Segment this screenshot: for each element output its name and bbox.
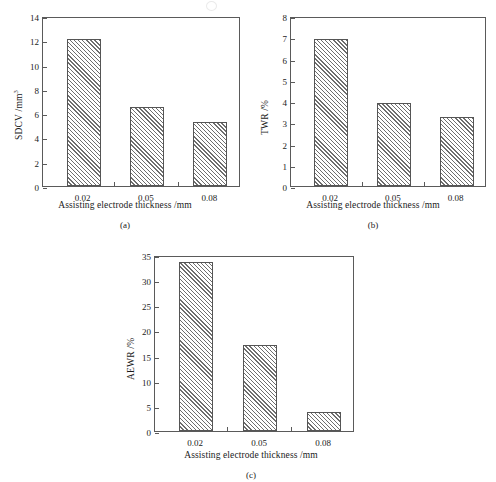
y-tick-mark bbox=[291, 18, 295, 19]
x-tick-mark bbox=[178, 182, 179, 186]
y-tick-mark bbox=[43, 42, 47, 43]
chart-panel-c: 05101520253035 AEWR /% Assisting electro… bbox=[120, 240, 382, 482]
y-tick-label: 20 bbox=[125, 328, 151, 337]
y-tick-mark bbox=[291, 167, 295, 168]
y-tick-label: 30 bbox=[125, 278, 151, 287]
y-tick-label: 2 bbox=[13, 159, 39, 168]
y-tick-mark bbox=[155, 307, 159, 308]
bar-0.08 bbox=[193, 122, 227, 186]
y-tick-mark bbox=[155, 358, 159, 359]
x-tick-label-0.08: 0.08 bbox=[186, 193, 232, 203]
x-tick-label-0.02: 0.02 bbox=[172, 438, 218, 448]
x-tick-label-0.05: 0.05 bbox=[123, 193, 169, 203]
y-tick-mark bbox=[43, 115, 47, 116]
chart-panel-b: 012345678 TWR /% Assisting electrode thi… bbox=[250, 0, 496, 232]
y-tick-mark bbox=[291, 61, 295, 62]
y-tick-label: 0 bbox=[13, 184, 39, 193]
bar-0.02 bbox=[179, 262, 213, 431]
y-tick-mark bbox=[155, 433, 159, 434]
bar-0.05 bbox=[130, 107, 164, 186]
panel-caption-a: (a) bbox=[0, 220, 250, 230]
y-tick-mark bbox=[155, 282, 159, 283]
y-tick-mark bbox=[291, 146, 295, 147]
x-tick-mark bbox=[424, 182, 425, 186]
x-tick-label-0.02: 0.02 bbox=[60, 193, 106, 203]
x-tick-mark bbox=[114, 182, 115, 186]
y-axis-label-a: SDCV /mm3 bbox=[12, 90, 24, 140]
y-tick-label: 14 bbox=[13, 14, 39, 23]
y-axis-label-b: TWR /% bbox=[260, 100, 270, 135]
y-tick-mark bbox=[291, 82, 295, 83]
y-tick-label: 5 bbox=[125, 403, 151, 412]
y-axis-label-superscript: 3 bbox=[12, 90, 19, 93]
x-tick-label-0.08: 0.08 bbox=[433, 193, 479, 203]
y-tick-mark bbox=[43, 188, 47, 189]
bar-0.08 bbox=[307, 412, 341, 431]
y-tick-label: 35 bbox=[125, 253, 151, 262]
y-tick-mark bbox=[43, 91, 47, 92]
y-tick-label: 8 bbox=[261, 14, 287, 23]
panel-caption-c: (c) bbox=[120, 470, 382, 480]
y-tick-label: 5 bbox=[261, 77, 287, 86]
y-axis-label-c: AEWR /% bbox=[126, 338, 136, 380]
bar-0.02 bbox=[67, 39, 101, 186]
figure-three-bar-charts: 02468101214 SDCV /mm3 Assisting electrod… bbox=[0, 0, 496, 482]
y-tick-label: 6 bbox=[261, 56, 287, 65]
y-tick-mark bbox=[43, 164, 47, 165]
y-tick-label: 1 bbox=[261, 162, 287, 171]
y-tick-mark bbox=[155, 332, 159, 333]
x-tick-mark bbox=[227, 427, 228, 431]
y-tick-label: 0 bbox=[125, 429, 151, 438]
bar-0.08 bbox=[440, 117, 474, 186]
bar-0.05 bbox=[377, 103, 411, 186]
y-tick-mark bbox=[291, 124, 295, 125]
x-tick-label-0.05: 0.05 bbox=[370, 193, 416, 203]
plot-area-b: 012345678 bbox=[290, 17, 486, 187]
x-tick-label-0.05: 0.05 bbox=[236, 438, 282, 448]
y-tick-mark bbox=[155, 257, 159, 258]
x-tick-mark bbox=[362, 182, 363, 186]
y-tick-mark bbox=[291, 103, 295, 104]
y-tick-mark bbox=[155, 408, 159, 409]
x-tick-label-0.02: 0.02 bbox=[307, 193, 353, 203]
y-tick-label: 7 bbox=[261, 35, 287, 44]
x-axis-label-c: Assisting electrode thickness /mm bbox=[120, 450, 382, 460]
y-tick-label: 10 bbox=[13, 62, 39, 71]
y-tick-mark bbox=[291, 39, 295, 40]
bar-0.02 bbox=[314, 39, 348, 186]
y-tick-mark bbox=[291, 188, 295, 189]
plot-area-c: 05101520253035 bbox=[154, 256, 354, 432]
y-tick-mark bbox=[43, 18, 47, 19]
panel-caption-b: (b) bbox=[250, 220, 496, 230]
y-tick-mark bbox=[43, 139, 47, 140]
plot-area-a: 02468101214 bbox=[42, 17, 240, 187]
y-tick-label: 0 bbox=[261, 184, 287, 193]
y-tick-label: 2 bbox=[261, 141, 287, 150]
y-tick-mark bbox=[155, 383, 159, 384]
y-tick-label: 12 bbox=[13, 38, 39, 47]
bar-0.05 bbox=[243, 345, 277, 431]
x-tick-mark bbox=[291, 427, 292, 431]
y-tick-label: 25 bbox=[125, 303, 151, 312]
y-tick-mark bbox=[43, 67, 47, 68]
chart-panel-a: 02468101214 SDCV /mm3 Assisting electrod… bbox=[0, 0, 250, 232]
x-tick-label-0.08: 0.08 bbox=[300, 438, 346, 448]
